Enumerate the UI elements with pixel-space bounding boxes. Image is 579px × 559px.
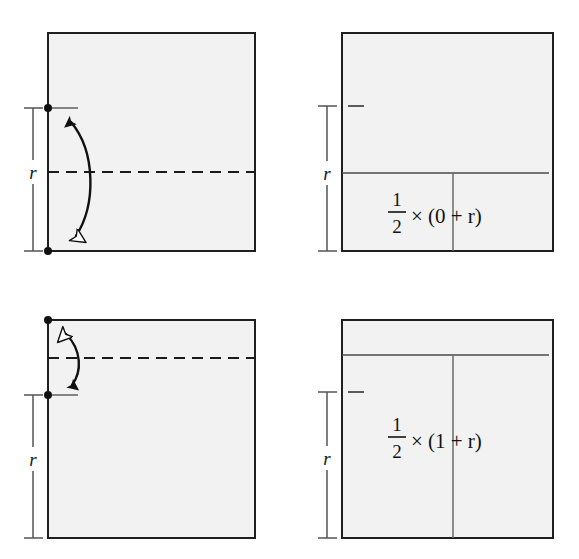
panel-top-right: r 1 2 × (0 + r) bbox=[318, 33, 553, 251]
endpoint-dot-bottom-bl bbox=[44, 391, 52, 399]
measure-label-bottom-left: r bbox=[29, 449, 37, 470]
figure-container: r r 1 2 × (0 + r) bbox=[0, 0, 579, 559]
multiply-sign-tr: × bbox=[411, 204, 423, 228]
fraction-numerator-tr: 1 bbox=[392, 189, 402, 210]
measure-label-top-right: r bbox=[323, 163, 331, 184]
panel-bottom-left: r bbox=[24, 316, 255, 538]
fraction-denominator-tr: 2 bbox=[392, 216, 402, 237]
endpoint-dot-top-tl bbox=[44, 104, 52, 112]
fraction-denominator-br: 2 bbox=[392, 441, 402, 462]
fraction-numerator-br: 1 bbox=[392, 414, 402, 435]
diagram-canvas: r r 1 2 × (0 + r) bbox=[0, 0, 579, 559]
multiply-sign-br: × bbox=[411, 429, 423, 453]
panel-bottom-right: r 1 2 × (1 + r) bbox=[318, 320, 553, 538]
measure-label-top-left: r bbox=[29, 162, 37, 183]
expression-tr: (0 + r) bbox=[428, 204, 482, 228]
endpoint-dot-top-bl bbox=[44, 316, 52, 324]
endpoint-dot-bottom-tl bbox=[44, 247, 52, 255]
square-top-left bbox=[48, 33, 255, 251]
panel-top-left: r bbox=[24, 33, 255, 255]
square-bottom-left bbox=[48, 320, 255, 538]
measure-label-bottom-right: r bbox=[323, 448, 331, 469]
expression-br: (1 + r) bbox=[428, 429, 482, 453]
